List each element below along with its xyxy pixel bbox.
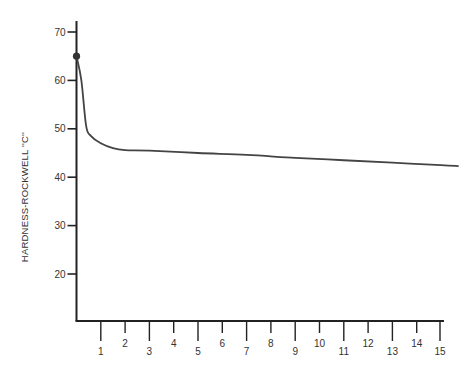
x-tick-label: 10 <box>314 338 326 349</box>
y-axis-title: HARDNESS-ROCKWELL ''C'' <box>19 132 30 262</box>
x-tick-label: 6 <box>220 338 226 349</box>
y-tick-label: 70 <box>54 27 66 38</box>
x-tick-label: 11 <box>339 346 350 357</box>
x-tick-label: 12 <box>363 338 375 349</box>
hardness-chart: 203040506070 123456789101112131415 HARDN… <box>0 0 475 381</box>
hardness-curve <box>77 56 459 166</box>
x-tick-label: 2 <box>122 338 128 349</box>
y-tick-label: 50 <box>54 123 66 134</box>
y-tick-label: 40 <box>54 172 66 183</box>
x-tick-label: 7 <box>244 346 250 357</box>
x-tick-label: 3 <box>147 346 153 357</box>
y-tick-label: 30 <box>54 220 66 231</box>
y-axis: 203040506070 <box>54 21 76 321</box>
y-tick-label: 20 <box>54 269 66 280</box>
x-axis: 123456789101112131415 <box>76 321 446 357</box>
y-tick-label: 60 <box>54 75 66 86</box>
start-point-marker <box>73 53 80 60</box>
x-tick-label: 8 <box>268 338 274 349</box>
x-tick-label: 4 <box>171 338 177 349</box>
x-tick-label: 15 <box>434 346 446 357</box>
x-tick-label: 14 <box>411 338 423 349</box>
x-tick-label: 13 <box>387 346 399 357</box>
x-tick-label: 9 <box>292 346 298 357</box>
x-tick-label: 1 <box>98 346 104 357</box>
x-tick-label: 5 <box>195 346 201 357</box>
